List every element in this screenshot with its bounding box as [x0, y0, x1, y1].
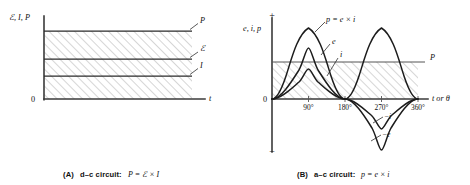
panel-a-caption-tag: (A): [63, 170, 74, 179]
panel-b-leader-power: [315, 22, 325, 32]
panel-b-label-average-power: P: [429, 53, 435, 62]
panel-b-minus-sign: −: [269, 146, 275, 157]
panel-a-label-power: P: [199, 16, 205, 25]
panel-b-tick-label-90: 90°: [303, 103, 313, 112]
panel-b-label-current: i: [340, 50, 343, 59]
panel-b-origin-label: 0: [263, 95, 267, 104]
panel-b-x-axis-label: t or θ: [432, 94, 450, 103]
panel-b-tick-label-180: 180°: [338, 103, 352, 112]
figure-root: ℰ, I, P 0 t P ℰ I (A) d–c circuit: P = ℰ…: [0, 0, 470, 185]
panel-b: + − e, i, p 0 t or θ 90° 180° 270° 360° …: [243, 10, 450, 179]
panel-a-x-axis-label: t: [209, 94, 212, 103]
panel-b-label-neg-emf: −e: [382, 130, 391, 139]
panel-b-label-power: p = e × i: [325, 15, 356, 24]
panel-b-tick-label-270: 270°: [374, 103, 388, 112]
panel-a-label-emf: ℰ: [200, 44, 206, 53]
panel-b-label-neg-current: −i: [384, 112, 391, 121]
panel-a-caption-equation: P = ℰ × I: [127, 170, 160, 179]
panel-b-tick-label-360: 360°: [411, 103, 425, 112]
panel-b-label-emf: e: [332, 37, 336, 46]
panel-a-origin-label: 0: [31, 95, 35, 104]
panel-b-y-axis-label: e, i, p: [243, 24, 261, 33]
power-comparison-figure: ℰ, I, P 0 t P ℰ I (A) d–c circuit: P = ℰ…: [0, 0, 470, 185]
panel-b-caption-tag: (B): [297, 170, 308, 179]
panel-a-label-current: I: [199, 61, 204, 70]
panel-a-leader-power: [190, 24, 198, 30]
panel-b-caption-equation: p = e × i: [360, 170, 390, 179]
panel-a-hatched-region: [44, 31, 192, 99]
panel-b-hatched-region: [272, 62, 418, 99]
panel-b-plus-sign: +: [269, 10, 275, 21]
panel-a-y-axis-label: ℰ, I, P: [9, 13, 30, 22]
panel-a-caption-text: d–c circuit:: [80, 170, 122, 179]
panel-b-caption-text: a–c circuit:: [314, 170, 355, 179]
panel-a: ℰ, I, P 0 t P ℰ I (A) d–c circuit: P = ℰ…: [9, 13, 212, 179]
